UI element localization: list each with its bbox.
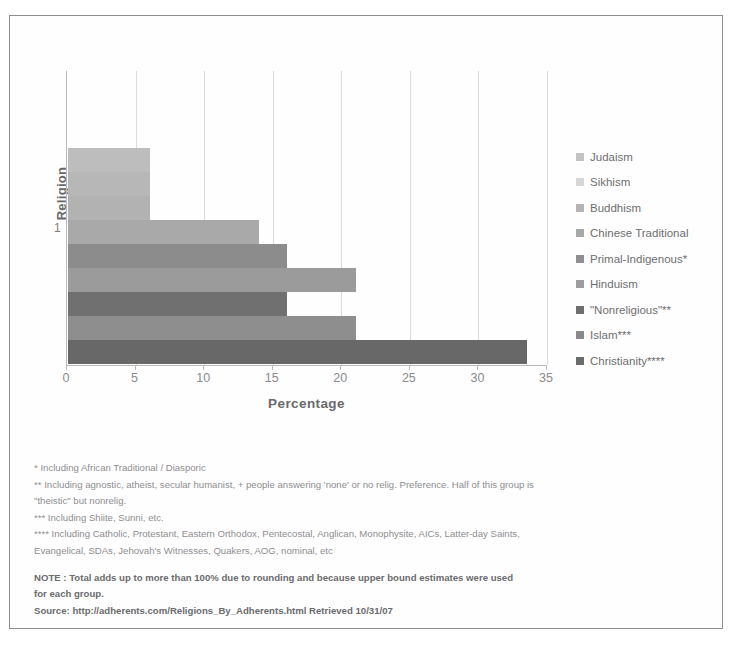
x-tick-label: 20: [333, 371, 347, 385]
x-tick-label: 10: [196, 371, 210, 385]
footnote-4a: **** Including Catholic, Protestant, Eas…: [34, 526, 704, 542]
footnote-2a: ** Including agnostic, atheist, secular …: [34, 477, 704, 493]
gridline: [547, 71, 548, 365]
plot-area: [66, 71, 547, 366]
legend-item[interactable]: Chinese Traditional: [576, 221, 724, 247]
footnotes-block: * Including African Traditional / Diaspo…: [34, 460, 704, 619]
legend-swatch-icon: [576, 255, 584, 263]
y-axis-tick-label: 1: [54, 221, 61, 235]
x-tick-label: 5: [131, 371, 138, 385]
bar-segment: [68, 148, 150, 172]
footnote-4b: Evangelical, SDAs, Jehovah's Witnesses, …: [34, 543, 704, 559]
x-tick-mark: [409, 365, 410, 370]
x-tick-mark: [477, 365, 478, 370]
legend-item-label: Judaism: [590, 151, 633, 163]
legend-item-label: Primal-Indigenous*: [590, 253, 687, 265]
x-tick-label: 0: [63, 371, 70, 385]
x-axis-ticks: 05101520253035: [66, 371, 547, 391]
footnote-1: * Including African Traditional / Diaspo…: [34, 460, 704, 476]
legend-swatch-icon: [576, 178, 584, 186]
bar-segment: [68, 340, 527, 364]
x-tick-label: 25: [402, 371, 416, 385]
x-axis-title: Percentage: [66, 396, 547, 411]
bar-segment: [68, 244, 287, 268]
legend-item[interactable]: Christianity****: [576, 348, 724, 374]
bar-segment: [68, 172, 150, 196]
bar-chart: Religion 1 05101520253035 Percentage Jud…: [10, 16, 724, 436]
legend-item-label: Chinese Traditional: [590, 227, 688, 239]
legend-swatch-icon: [576, 306, 584, 314]
legend-swatch-icon: [576, 229, 584, 237]
legend-item-label: "Nonreligious"**: [590, 304, 671, 316]
x-tick-mark: [135, 365, 136, 370]
legend-item[interactable]: Primal-Indigenous*: [576, 246, 724, 272]
chart-legend: JudaismSikhismBuddhismChinese Traditiona…: [576, 144, 724, 374]
bar-segment: [68, 316, 356, 340]
x-tick-mark: [546, 365, 547, 370]
bar-segment: [68, 196, 150, 220]
legend-swatch-icon: [576, 280, 584, 288]
x-tick-mark: [203, 365, 204, 370]
bar-segment: [68, 292, 287, 316]
x-tick-label: 35: [539, 371, 553, 385]
bar-segment: [68, 268, 356, 292]
legend-swatch-icon: [576, 331, 584, 339]
x-tick-label: 30: [470, 371, 484, 385]
note-line-2: for each group.: [34, 586, 704, 602]
legend-item-label: Hinduism: [590, 278, 638, 290]
chart-frame: Religion 1 05101520253035 Percentage Jud…: [9, 15, 723, 629]
legend-swatch-icon: [576, 357, 584, 365]
legend-swatch-icon: [576, 204, 584, 212]
legend-item[interactable]: Judaism: [576, 144, 724, 170]
legend-item[interactable]: "Nonreligious"**: [576, 297, 724, 323]
source-line: Source: http://adherents.com/Religions_B…: [34, 603, 704, 619]
legend-item-label: Islam***: [590, 329, 631, 341]
x-tick-mark: [66, 365, 67, 370]
legend-item-label: Christianity****: [590, 355, 665, 367]
legend-item[interactable]: Buddhism: [576, 195, 724, 221]
legend-item[interactable]: Hinduism: [576, 272, 724, 298]
x-tick-label: 15: [265, 371, 279, 385]
bar-stack: [68, 148, 547, 364]
legend-swatch-icon: [576, 153, 584, 161]
legend-item[interactable]: Sikhism: [576, 170, 724, 196]
x-tick-mark: [272, 365, 273, 370]
legend-item-label: Sikhism: [590, 176, 630, 188]
legend-item[interactable]: Islam***: [576, 323, 724, 349]
footnote-2b: "theistic" but nonrelig.: [34, 493, 704, 509]
legend-item-label: Buddhism: [590, 202, 641, 214]
note-line-1: NOTE : Total adds up to more than 100% d…: [34, 570, 704, 586]
x-tick-mark: [340, 365, 341, 370]
footnote-3: *** Including Shiite, Sunni, etc.: [34, 510, 704, 526]
bar-segment: [68, 220, 259, 244]
